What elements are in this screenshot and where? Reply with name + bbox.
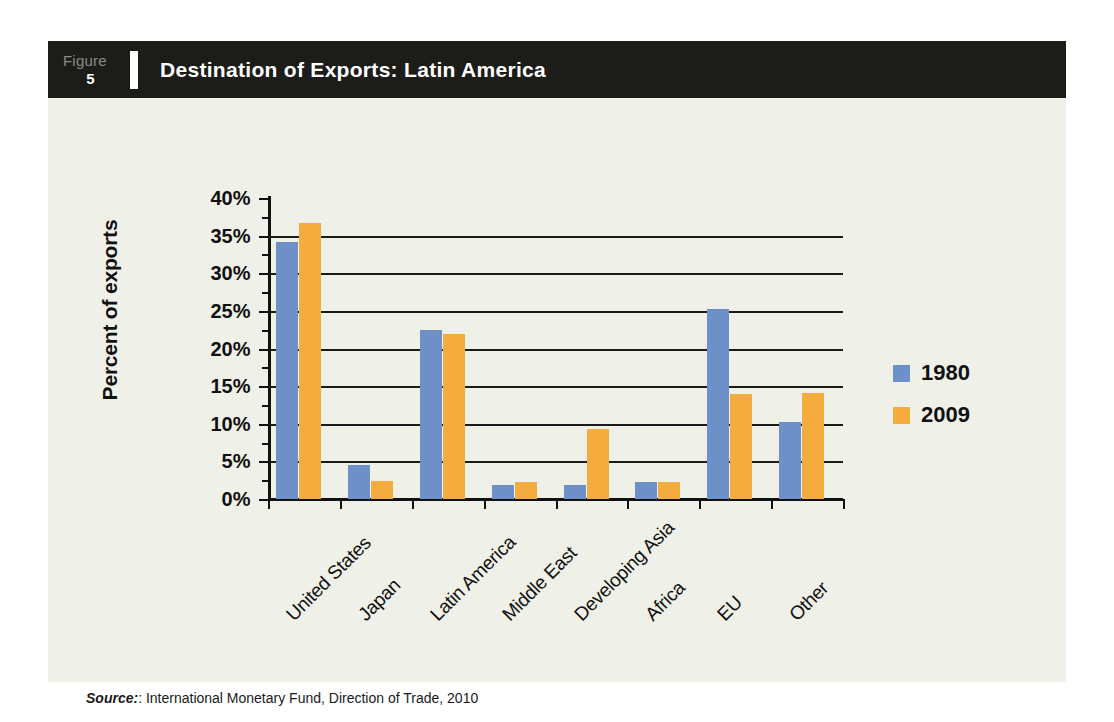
x-axis-tick — [412, 499, 414, 509]
bar-group — [627, 198, 699, 499]
bar-2009 — [515, 482, 537, 499]
y-axis-tick-label: 40% — [210, 187, 256, 210]
legend-item[interactable]: 2009 — [893, 402, 970, 428]
bar-2009 — [371, 481, 393, 499]
bar-group — [268, 198, 340, 499]
y-axis-tick-label: 15% — [210, 375, 256, 398]
figure-header: Figure 5 Destination of Exports: Latin A… — [48, 41, 1066, 98]
x-axis-tick — [699, 499, 701, 509]
bar-2009 — [587, 429, 609, 499]
header-divider — [130, 51, 138, 89]
x-axis-label: Africa — [641, 577, 690, 626]
bar-1980 — [492, 485, 514, 499]
source-text: : International Monetary Fund, Direction… — [138, 690, 478, 706]
legend-label: 2009 — [921, 402, 970, 428]
x-axis-tick — [484, 499, 486, 509]
legend-swatch — [893, 407, 910, 424]
x-axis-tick — [771, 499, 773, 509]
figure-number-block: Figure 5 — [61, 53, 128, 86]
x-axis-label: EU — [713, 592, 747, 626]
bar-group — [412, 198, 484, 499]
bar-group — [556, 198, 628, 499]
y-axis-tick-label: 30% — [210, 262, 256, 285]
bar-1980 — [635, 482, 657, 499]
legend-item[interactable]: 1980 — [893, 360, 970, 386]
y-axis-tick-label: 35% — [210, 224, 256, 247]
plot-area: 0%5%10%15%20%25%30%35%40% United StatesJ… — [268, 198, 843, 499]
bar-1980 — [276, 242, 298, 499]
x-axis-tick — [340, 499, 342, 509]
figure-panel: Figure 5 Destination of Exports: Latin A… — [48, 41, 1066, 682]
x-axis-label: Japan — [354, 574, 405, 625]
bar-1980 — [348, 465, 370, 499]
bar-2009 — [658, 482, 680, 499]
bar-2009 — [299, 223, 321, 499]
bar-2009 — [802, 393, 824, 499]
x-axis-tick — [843, 499, 845, 509]
x-axis-tick — [268, 499, 270, 509]
bar-1980 — [779, 422, 801, 499]
bar-1980 — [420, 330, 442, 499]
y-axis-tick-label: 5% — [222, 450, 257, 473]
legend-label: 1980 — [921, 360, 970, 386]
x-axis-tick — [556, 499, 558, 509]
x-axis-tick — [627, 499, 629, 509]
bar-group — [699, 198, 771, 499]
bar-1980 — [564, 485, 586, 499]
bar-1980 — [707, 309, 729, 499]
bar-group — [340, 198, 412, 499]
source-note: Source:: International Monetary Fund, Di… — [86, 690, 478, 706]
figure-label: Figure — [61, 53, 128, 68]
source-label: Source: — [86, 690, 138, 706]
figure-number: 5 — [61, 71, 128, 86]
bar-group — [771, 198, 843, 499]
bar-group — [484, 198, 556, 499]
figure-title: Destination of Exports: Latin America — [160, 58, 546, 82]
y-axis-tick-label: 20% — [210, 337, 256, 360]
bar-2009 — [443, 334, 465, 499]
bar-2009 — [730, 394, 752, 499]
legend-swatch — [893, 365, 910, 382]
y-axis-title: Percent of exports — [98, 200, 122, 420]
y-axis-tick-label: 25% — [210, 299, 256, 322]
chart-area: Percent of exports 0%5%10%15%20%25%30%35… — [48, 98, 1066, 682]
x-axis-label: Other — [785, 577, 833, 625]
y-axis-tick-label: 10% — [210, 412, 256, 435]
y-axis-tick-label: 0% — [222, 488, 257, 511]
legend: 19802009 — [893, 360, 970, 444]
